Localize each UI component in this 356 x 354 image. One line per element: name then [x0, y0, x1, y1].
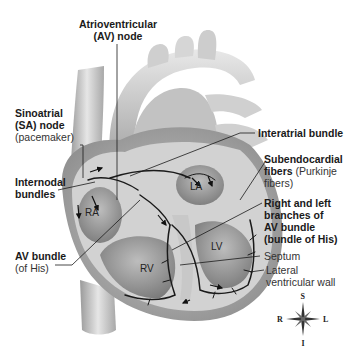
chamber-label-ra: RA: [85, 207, 99, 218]
label-branches-line3: AV bundle: [264, 221, 338, 233]
compass-left: L: [323, 315, 328, 324]
label-branches-line4: (bundle of His): [264, 233, 338, 245]
label-subendocardial-line3: fibers): [264, 177, 343, 189]
left-carotid-artery: [175, 36, 194, 58]
compass-inferior: I: [302, 339, 305, 348]
chamber-label-lv: LV: [211, 241, 223, 252]
chamber-label-rv: RV: [140, 263, 154, 274]
label-av-bundle-line1: AV bundle: [15, 250, 66, 262]
label-internodal-line2: bundles: [15, 188, 66, 200]
label-lateral-wall: Lateral ventricular wall: [266, 264, 335, 288]
label-sa-node-line1: Sinoatrial: [15, 107, 74, 119]
label-subendocardial-line2-bold: fibers: [264, 165, 293, 177]
label-internodal-line1: Internodal: [15, 176, 66, 188]
label-lateral-wall-line2: ventricular wall: [266, 276, 335, 288]
label-av-node-line2: (AV) node: [78, 30, 158, 42]
label-interatrial: Interatrial bundle: [258, 127, 343, 139]
label-sa-node: Sinoatrial (SA) node (pacemaker): [15, 107, 74, 143]
compass-right: R: [277, 315, 283, 324]
compass-rose: S I R L: [277, 292, 328, 348]
label-branches-line1: Right and left: [264, 197, 338, 209]
label-sa-node-line3: (pacemaker): [15, 131, 74, 143]
label-sa-node-line2: (SA) node: [15, 119, 74, 131]
label-septum-text: Septum: [264, 250, 300, 262]
label-branches-line2: branches of: [264, 209, 338, 221]
compass-superior: S: [301, 292, 306, 301]
label-av-node: Atrioventricular (AV) node: [78, 18, 158, 42]
left-subclavian-artery: [198, 30, 217, 60]
label-subendocardial: Subendocardial fibers (Purkinje fibers): [264, 153, 343, 189]
chamber-label-la: LA: [190, 181, 203, 192]
label-av-bundle: AV bundle (of His): [15, 250, 66, 274]
label-subendocardial-line1: Subendocardial: [264, 153, 343, 165]
label-septum: Septum: [264, 250, 300, 262]
label-av-node-line1: Atrioventricular: [78, 18, 158, 30]
label-branches: Right and left branches of AV bundle (bu…: [264, 197, 338, 245]
label-subendocardial-line2-normal: (Purkinje: [293, 165, 337, 177]
label-av-bundle-line2: (of His): [15, 262, 66, 274]
label-interatrial-text: Interatrial bundle: [258, 127, 343, 139]
label-internodal: Internodal bundles: [15, 176, 66, 200]
label-lateral-wall-line1: Lateral: [266, 264, 335, 276]
